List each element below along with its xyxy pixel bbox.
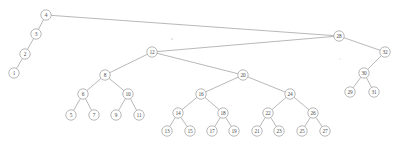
tree-edge-16-14 [182, 97, 197, 109]
tree-node-9[interactable]: 9 [111, 110, 121, 120]
node-label-7: 7 [93, 112, 96, 118]
tree-node-21[interactable]: 21 [252, 126, 262, 136]
tree-node-15[interactable]: 15 [185, 126, 195, 136]
node-label-23: 23 [276, 128, 282, 134]
tree-node-3[interactable]: 3 [31, 29, 41, 39]
node-layer: 1234567891011121314151617181920212223242… [9, 10, 390, 136]
scan-speck-0 [171, 38, 173, 40]
tree-node-24[interactable]: 24 [285, 89, 295, 99]
tree-node-1[interactable]: 1 [9, 68, 19, 78]
node-label-26: 26 [310, 110, 316, 116]
tree-node-2[interactable]: 2 [20, 49, 30, 59]
tree-node-30[interactable]: 30 [359, 68, 369, 78]
node-label-2: 2 [24, 51, 27, 57]
tree-node-16[interactable]: 16 [196, 89, 206, 99]
tree-node-27[interactable]: 27 [320, 126, 330, 136]
tree-edge-4-3 [38, 20, 43, 30]
binary-search-tree-graph: 1234567891011121314151617181920212223242… [0, 0, 399, 150]
node-label-31: 31 [371, 89, 377, 95]
tree-edge-12-8 [110, 54, 148, 72]
node-label-25: 25 [299, 128, 305, 134]
node-label-15: 15 [187, 128, 193, 134]
tree-edge-10-9 [119, 99, 126, 111]
node-label-14: 14 [175, 110, 181, 116]
tree-edge-10-11 [130, 99, 136, 111]
tree-node-26[interactable]: 26 [308, 108, 318, 118]
tree-node-6[interactable]: 6 [78, 89, 88, 99]
node-label-13: 13 [164, 128, 170, 134]
tree-node-5[interactable]: 5 [66, 110, 76, 120]
node-label-22: 22 [265, 110, 271, 116]
tree-edge-6-7 [85, 99, 91, 111]
tree-edge-20-24 [248, 77, 285, 92]
diagram-canvas: 1234567891011121314151617181920212223242… [0, 0, 399, 150]
node-label-20: 20 [240, 72, 246, 78]
tree-edge-26-25 [305, 117, 311, 126]
tree-node-17[interactable]: 17 [207, 126, 217, 136]
node-label-8: 8 [104, 72, 107, 78]
tree-node-25[interactable]: 25 [297, 126, 307, 136]
tree-edge-14-13 [170, 117, 176, 126]
tree-node-31[interactable]: 31 [369, 87, 379, 97]
tree-node-4[interactable]: 4 [41, 10, 51, 20]
tree-edge-2-1 [17, 59, 23, 69]
tree-edge-20-16 [206, 77, 239, 92]
node-label-32: 32 [382, 49, 388, 55]
tree-edge-32-30 [368, 56, 382, 70]
tree-edge-28-32 [344, 38, 380, 51]
tree-edge-22-23 [271, 117, 277, 126]
tree-node-7[interactable]: 7 [89, 110, 99, 120]
node-label-6: 6 [82, 91, 85, 97]
tree-edge-8-6 [87, 78, 101, 90]
node-label-30: 30 [361, 70, 367, 76]
scan-speck-1 [339, 58, 340, 59]
tree-node-11[interactable]: 11 [134, 110, 144, 120]
tree-edge-3-2 [28, 39, 34, 50]
tree-edge-6-5 [74, 99, 81, 111]
tree-edge-16-18 [205, 97, 219, 109]
tree-edge-8-10 [109, 78, 124, 90]
tree-node-18[interactable]: 18 [218, 108, 228, 118]
node-label-12: 12 [149, 49, 155, 55]
tree-edge-30-31 [366, 78, 371, 88]
node-label-29: 29 [347, 89, 353, 95]
tree-edge-30-29 [353, 77, 361, 88]
tree-node-13[interactable]: 13 [162, 126, 172, 136]
tree-edge-18-19 [226, 117, 232, 126]
tree-node-22[interactable]: 22 [263, 108, 273, 118]
node-label-27: 27 [322, 128, 328, 134]
tree-node-8[interactable]: 8 [100, 70, 110, 80]
tree-edge-12-20 [157, 53, 238, 73]
node-label-18: 18 [220, 110, 226, 116]
tree-edge-22-21 [260, 117, 266, 126]
tree-edge-26-27 [316, 117, 322, 126]
tree-node-32[interactable]: 32 [380, 47, 390, 57]
tree-edge-24-22 [272, 97, 286, 109]
node-label-24: 24 [287, 91, 293, 97]
node-label-5: 5 [70, 112, 73, 118]
tree-node-29[interactable]: 29 [345, 87, 355, 97]
tree-edge-4-28 [51, 15, 334, 35]
node-label-16: 16 [198, 91, 204, 97]
tree-edge-28-12 [157, 36, 334, 51]
tree-edge-14-15 [181, 117, 187, 126]
tree-node-12[interactable]: 12 [147, 47, 157, 57]
tree-node-10[interactable]: 10 [123, 89, 133, 99]
node-label-11: 11 [137, 112, 142, 118]
node-label-1: 1 [13, 70, 16, 76]
node-label-9: 9 [115, 112, 118, 118]
node-label-4: 4 [45, 12, 48, 18]
tree-node-14[interactable]: 14 [173, 108, 183, 118]
tree-node-23[interactable]: 23 [274, 126, 284, 136]
tree-node-20[interactable]: 20 [238, 70, 248, 80]
node-label-21: 21 [254, 128, 260, 134]
node-label-10: 10 [125, 91, 131, 97]
node-label-28: 28 [336, 33, 342, 39]
tree-node-28[interactable]: 28 [334, 31, 344, 41]
tree-edge-24-26 [294, 97, 309, 109]
tree-edge-18-17 [215, 117, 221, 126]
node-label-17: 17 [209, 128, 215, 134]
tree-node-19[interactable]: 19 [229, 126, 239, 136]
speck-layer [171, 38, 341, 60]
node-label-3: 3 [35, 31, 38, 37]
